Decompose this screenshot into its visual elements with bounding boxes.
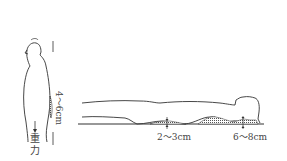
lumbar-hatch xyxy=(50,96,53,118)
gravity-label-2: 力 xyxy=(30,146,40,156)
lumbar-gap-label: 4～6cm xyxy=(53,91,66,125)
standing-figure xyxy=(24,39,50,143)
waist-gap-label: 2～3cm xyxy=(157,133,191,142)
posture-diagram: 4～6cm 重 力 2～3cm 6～8cm xyxy=(0,0,287,161)
gravity-label-1: 重 xyxy=(30,134,40,144)
lying-figure xyxy=(78,97,264,124)
neck-gap-label: 6～8cm xyxy=(233,133,267,142)
neck-hatch xyxy=(198,117,258,124)
